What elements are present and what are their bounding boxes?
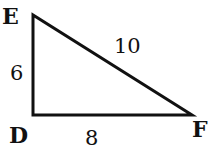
triangle-def xyxy=(33,15,192,115)
triangle-diagram: E D F 6 8 10 xyxy=(0,0,212,150)
side-ed-label: 6 xyxy=(10,61,23,85)
vertex-f-label: F xyxy=(192,116,208,142)
vertex-e-label: E xyxy=(2,3,19,29)
side-ef-label: 10 xyxy=(114,34,141,58)
vertex-d-label: D xyxy=(9,122,28,148)
side-df-label: 8 xyxy=(85,126,98,150)
